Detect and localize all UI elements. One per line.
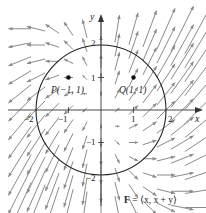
field-arrow bbox=[185, 4, 206, 54]
field-arrow bbox=[157, 27, 175, 63]
field-arrowhead-icon bbox=[82, 38, 85, 42]
field-arrowhead-icon bbox=[81, 201, 85, 205]
y-axis-arrow-icon bbox=[98, 14, 104, 22]
field-arrow bbox=[143, 11, 157, 47]
x-tick-label-neg1: −1 bbox=[58, 114, 68, 124]
field-arrowhead-icon bbox=[45, 205, 48, 209]
field-arrow bbox=[185, 170, 206, 179]
field-arrowhead-icon bbox=[64, 184, 67, 188]
field-formula-rest: = ⟨x, x + y⟩ bbox=[130, 195, 177, 205]
field-arrow bbox=[45, 159, 59, 191]
y-axis-label: y bbox=[89, 11, 95, 22]
point-p-label: P(−1, 1) bbox=[50, 85, 84, 96]
field-arrowhead-icon bbox=[117, 34, 121, 38]
field-arrowhead-icon bbox=[45, 59, 49, 63]
field-arrow bbox=[143, 48, 157, 75]
field-arrowhead-icon bbox=[8, 27, 12, 31]
field-arrow bbox=[157, 8, 175, 49]
field-arrowhead-icon bbox=[152, 140, 156, 143]
field-arrow bbox=[45, 145, 59, 172]
field-arrowhead-icon bbox=[117, 177, 120, 181]
field-arrowhead-icon bbox=[117, 71, 120, 75]
field-arrow bbox=[185, 133, 206, 151]
field-arrowhead-icon bbox=[153, 157, 157, 161]
field-arrow bbox=[27, 157, 45, 193]
x-tick-label-neg2: −2 bbox=[24, 114, 34, 124]
field-arrowhead-icon bbox=[45, 42, 49, 45]
field-arrow bbox=[45, 173, 59, 209]
field-arrow bbox=[157, 45, 175, 77]
y-tick-label-neg2: −2 bbox=[86, 173, 96, 183]
field-arrow bbox=[64, 175, 73, 207]
x-axis-label: x bbox=[194, 113, 200, 124]
y-tick-label-neg1: −1 bbox=[86, 137, 96, 147]
field-arrow bbox=[27, 143, 45, 175]
point-p-dot bbox=[66, 75, 70, 79]
field-arrowhead-icon bbox=[117, 15, 121, 19]
x-tick-label-1: 1 bbox=[131, 114, 136, 124]
field-arrowhead-icon bbox=[152, 174, 156, 177]
field-arrowhead-icon bbox=[153, 11, 156, 15]
field-arrowhead-icon bbox=[45, 77, 49, 80]
y-tick-label-1: 1 bbox=[91, 73, 96, 83]
field-arrow bbox=[129, 13, 138, 45]
field-arrowhead-icon bbox=[135, 141, 138, 144]
field-arrowhead-icon bbox=[8, 45, 12, 49]
field-arrow bbox=[185, 22, 206, 68]
y-tick-label-2: 2 bbox=[91, 38, 96, 48]
point-q-dot bbox=[131, 75, 135, 79]
vector-field-diagram: x y −2 −1 1 2 2 1 −1 −2 P(−1, 1) Q(1, 1)… bbox=[0, 0, 206, 213]
field-arrowhead-icon bbox=[81, 182, 85, 186]
field-arrowhead-icon bbox=[82, 145, 85, 149]
field-arrowhead-icon bbox=[189, 172, 193, 176]
field-arrowhead-icon bbox=[117, 125, 120, 127]
field-formula-label: F = ⟨x, x + y⟩ bbox=[124, 195, 177, 205]
field-arrow bbox=[185, 152, 206, 166]
point-q-label: Q(1, 1) bbox=[119, 85, 146, 96]
vector-field-arrows bbox=[8, 4, 206, 213]
field-arrowhead-icon bbox=[135, 31, 138, 35]
field-arrow bbox=[143, 29, 157, 61]
x-tick-label-2: 2 bbox=[168, 114, 173, 124]
